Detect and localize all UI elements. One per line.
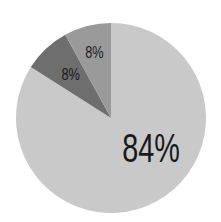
slice-label-a: 84% (122, 125, 180, 170)
pie-slices (16, 23, 206, 213)
slice-label-b: 8% (61, 64, 79, 83)
slice-label-c: 8% (85, 42, 103, 61)
pie-chart: 84%8%8% (0, 0, 221, 222)
